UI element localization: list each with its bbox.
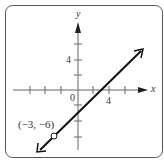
point-label: (−3, −6): [18, 119, 54, 130]
line-series: [37, 49, 143, 152]
graph: [0, 0, 164, 162]
y-axis: [74, 22, 82, 150]
x-axis-label: x: [151, 84, 155, 94]
x-tick-label-4: 4: [106, 96, 111, 106]
y-axis-arrow-icon: [75, 22, 81, 33]
y-tick-label-4: 4: [66, 55, 71, 65]
open-point-marker: [51, 133, 57, 139]
x-axis: [13, 86, 148, 94]
origin-label: 0: [70, 93, 75, 103]
graph-frame: [6, 6, 163, 158]
x-axis-arrow-icon: [138, 87, 148, 93]
y-axis-label: y: [76, 9, 80, 19]
